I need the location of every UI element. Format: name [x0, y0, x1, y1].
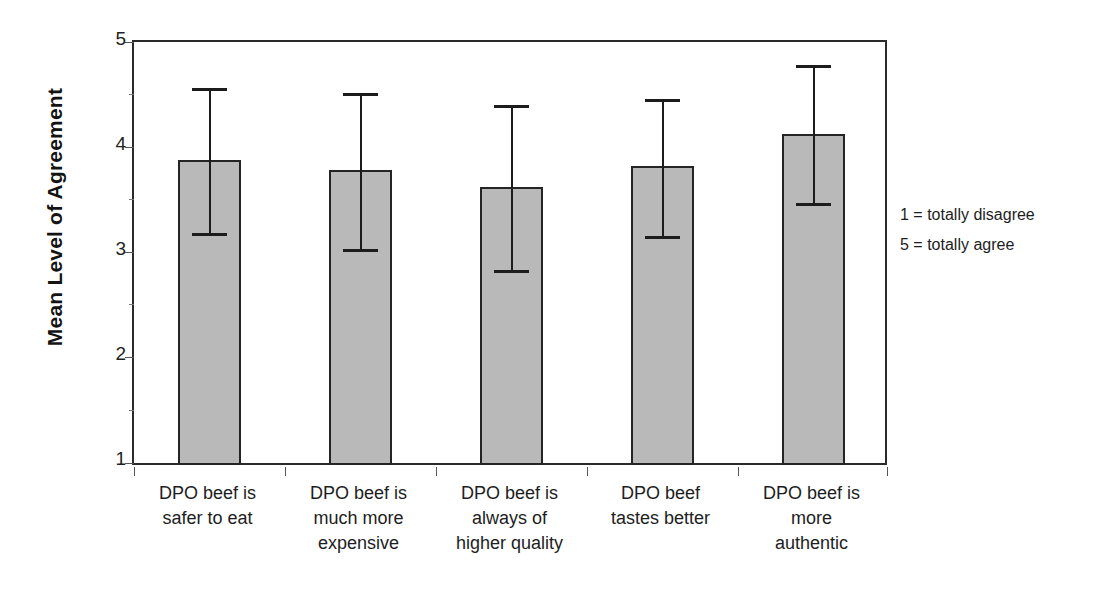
- category-label-3-line-2: always of: [434, 506, 585, 531]
- y-tick-major-4: [125, 147, 134, 148]
- category-label-5: DPO beef is more authentic: [736, 481, 887, 556]
- category-label-5-line-1: DPO beef is: [736, 481, 887, 506]
- category-label-4: DPO beef tastes better: [585, 481, 736, 531]
- y-tick-minor-3_5: [129, 199, 134, 200]
- x-tick-0: [134, 467, 135, 476]
- plot-area: [132, 40, 887, 465]
- category-label-2-line-2: much more: [283, 506, 434, 531]
- category-label-4-line-1: DPO beef: [585, 481, 736, 506]
- category-label-5-line-3: authentic: [736, 531, 887, 556]
- category-label-4-line-2: tastes better: [585, 506, 736, 531]
- error-bar-stem-3: [511, 105, 513, 270]
- category-label-5-line-2: more: [736, 506, 887, 531]
- error-bar-stem-4: [662, 99, 664, 236]
- category-label-1-line-1: DPO beef is: [132, 481, 283, 506]
- y-axis-title: Mean Level of Agreement: [43, 67, 67, 367]
- category-label-2-line-3: expensive: [283, 531, 434, 556]
- error-bar-cap-lower-4: [645, 236, 680, 239]
- category-label-3-line-3: higher quality: [434, 531, 585, 556]
- category-label-2: DPO beef is much more expensive: [283, 481, 434, 556]
- error-bar-cap-upper-4: [645, 99, 680, 102]
- error-bar-cap-lower-5: [796, 203, 831, 206]
- category-label-1-line-2: safer to eat: [132, 506, 283, 531]
- category-label-2-line-1: DPO beef is: [283, 481, 434, 506]
- y-tick-minor-2_5: [129, 304, 134, 305]
- y-tick-minor-4_5: [129, 94, 134, 95]
- y-tick-label-4: 4: [86, 133, 126, 155]
- error-bar-stem-1: [209, 88, 211, 233]
- chart-container: Mean Level of Agreement 5 4 3 2 1: [0, 0, 1095, 592]
- error-bar-cap-upper-2: [343, 93, 378, 96]
- error-bar-cap-lower-3: [494, 270, 529, 273]
- error-bar-stem-2: [360, 93, 362, 249]
- y-tick-major-3: [125, 252, 134, 253]
- y-tick-label-2: 2: [86, 343, 126, 365]
- y-tick-major-2: [125, 357, 134, 358]
- category-label-3-line-1: DPO beef is: [434, 481, 585, 506]
- error-bar-cap-upper-1: [192, 88, 227, 91]
- category-label-1: DPO beef is safer to eat: [132, 481, 283, 531]
- error-bar-cap-lower-1: [192, 233, 227, 236]
- x-tick-3: [587, 467, 588, 476]
- y-tick-label-3: 3: [86, 238, 126, 260]
- y-tick-label-1: 1: [86, 448, 126, 470]
- category-label-3: DPO beef is always of higher quality: [434, 481, 585, 556]
- error-bar-cap-upper-5: [796, 65, 831, 68]
- y-tick-minor-1_5: [129, 410, 134, 411]
- y-tick-label-5: 5: [86, 28, 126, 50]
- y-tick-major-1: [125, 463, 134, 464]
- y-tick-major-5: [125, 42, 134, 43]
- error-bar-cap-lower-2: [343, 249, 378, 252]
- scale-note-line-2: 5 = totally agree: [900, 230, 1035, 260]
- x-tick-5: [887, 467, 888, 476]
- x-tick-1: [285, 467, 286, 476]
- x-tick-4: [738, 467, 739, 476]
- scale-note-line-1: 1 = totally disagree: [900, 200, 1035, 230]
- x-tick-2: [436, 467, 437, 476]
- error-bar-stem-5: [813, 65, 815, 203]
- scale-note: 1 = totally disagree 5 = totally agree: [900, 200, 1035, 260]
- error-bar-cap-upper-3: [494, 105, 529, 108]
